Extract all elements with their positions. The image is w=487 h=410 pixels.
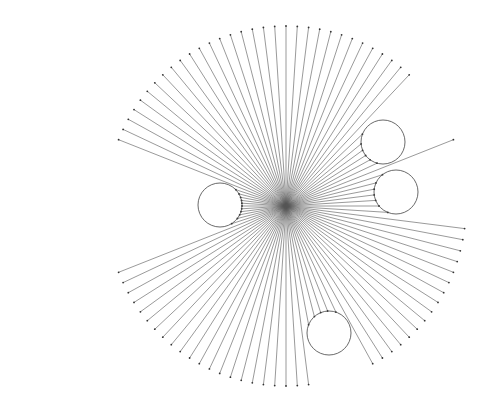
ray <box>286 140 453 206</box>
ray-endpoint <box>127 292 129 294</box>
ray-endpoint <box>285 385 287 387</box>
ray-endpoint <box>240 31 242 33</box>
ray <box>286 67 401 206</box>
ray-endpoint <box>400 66 402 68</box>
ray-endpoint <box>274 385 276 387</box>
ray-endpoint <box>400 344 402 346</box>
ray <box>286 144 361 206</box>
ray-endpoint <box>453 139 455 141</box>
ray-endpoint <box>127 118 129 120</box>
ray <box>147 206 286 321</box>
ray <box>286 26 297 206</box>
ray-endpoint <box>424 320 426 322</box>
ray <box>286 206 297 386</box>
ray-endpoint <box>240 379 242 381</box>
ray-endpoint <box>189 357 191 359</box>
ray-endpoint <box>198 47 200 49</box>
ray-endpoint <box>122 282 124 284</box>
ray-endpoint <box>308 384 310 386</box>
ray-endpoint <box>189 53 191 55</box>
ray <box>286 206 314 317</box>
ray-endpoint <box>230 34 232 36</box>
ray <box>286 206 425 321</box>
ray-endpoint <box>431 311 433 313</box>
ray <box>140 100 286 206</box>
ray-endpoint <box>140 99 142 101</box>
ray <box>147 91 286 206</box>
ray-endpoint <box>251 382 253 384</box>
ray <box>286 206 401 345</box>
ray <box>171 206 286 345</box>
ray-endpoint <box>296 26 298 28</box>
ray-endpoint <box>453 271 455 273</box>
ray-endpoint <box>140 311 142 313</box>
ray-endpoint <box>330 31 332 33</box>
ray-endpoint <box>308 27 310 29</box>
obstacles <box>198 120 418 355</box>
ray-endpoint <box>209 368 211 370</box>
ray-endpoint <box>118 139 120 141</box>
ray-endpoint <box>391 60 393 62</box>
ray-endpoint <box>162 74 164 76</box>
ray-endpoint <box>416 328 418 330</box>
ray-endpoint <box>351 38 353 40</box>
ray <box>241 206 286 380</box>
ray-endpoint <box>437 302 439 304</box>
ray-endpoint <box>296 385 298 387</box>
ray-endpoint <box>319 28 321 30</box>
ray <box>119 206 286 272</box>
ray-endpoint <box>362 42 364 44</box>
ray <box>275 206 286 386</box>
right-circle <box>374 170 418 214</box>
ray-endpoint <box>146 90 148 92</box>
ray <box>119 140 286 206</box>
ray-endpoint <box>456 261 458 263</box>
ray-endpoint <box>372 363 374 365</box>
ray-endpoint <box>408 336 410 338</box>
ray-endpoint <box>179 60 181 62</box>
ray-endpoint <box>122 129 124 131</box>
ray <box>286 206 328 311</box>
ray-endpoint <box>448 282 450 284</box>
ray-endpoint <box>219 38 221 40</box>
ray-endpoint <box>162 336 164 338</box>
ray <box>241 32 286 206</box>
ray-endpoint <box>285 25 287 27</box>
ray-endpoint <box>462 239 464 241</box>
ray-endpoint <box>118 271 120 273</box>
ray <box>275 26 286 206</box>
bottom-circle <box>307 311 351 355</box>
ray <box>286 39 352 206</box>
ray-endpoint <box>219 373 221 375</box>
ray-endpoint <box>154 328 156 330</box>
upper-right-circle <box>361 120 405 164</box>
ray-endpoint <box>170 344 172 346</box>
radial-ray-diagram <box>0 0 487 410</box>
ray-endpoint <box>133 302 135 304</box>
ray-endpoint <box>154 82 156 84</box>
ray-endpoint <box>170 66 172 68</box>
ray-endpoint <box>372 47 374 49</box>
ray-endpoint <box>209 42 211 44</box>
ray-endpoint <box>408 74 410 76</box>
ray-endpoint <box>459 250 461 252</box>
ray <box>220 206 286 373</box>
ray <box>140 206 286 312</box>
ray-endpoint <box>263 384 265 386</box>
ray <box>286 206 460 251</box>
ray-endpoint <box>382 357 384 359</box>
ray-endpoint <box>443 292 445 294</box>
ray-endpoint <box>464 228 466 230</box>
ray-endpoint <box>179 351 181 353</box>
ray-endpoint <box>391 351 393 353</box>
ray-endpoint <box>263 27 265 29</box>
ray-endpoint <box>198 363 200 365</box>
left-circle <box>198 183 242 227</box>
ray-endpoint <box>274 26 276 28</box>
ray <box>220 39 286 206</box>
ray-endpoint <box>133 109 135 111</box>
ray <box>286 32 331 206</box>
ray-endpoint <box>146 320 148 322</box>
ray <box>286 206 453 272</box>
ray-endpoint <box>341 34 343 36</box>
